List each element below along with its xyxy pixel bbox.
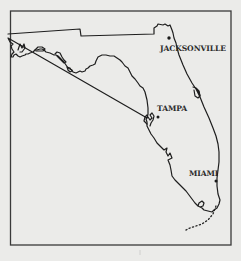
city-label-miami: MIAMI: [189, 169, 219, 178]
florida-map: JACKSONVILLE TAMPA MIAMI: [0, 0, 241, 261]
city-dot-icon: [167, 36, 170, 39]
city-dot-icon: [215, 180, 218, 183]
florida-keys: [184, 206, 216, 231]
city-miami: MIAMI: [189, 169, 219, 183]
city-label-tampa: TAMPA: [157, 104, 187, 113]
map-canvas: JACKSONVILLE TAMPA MIAMI: [0, 0, 241, 261]
city-jacksonville: JACKSONVILLE: [159, 36, 226, 53]
city-dot-icon: [157, 116, 160, 119]
city-tampa: TAMPA: [157, 104, 188, 119]
st-andrews-bay: [55, 52, 66, 63]
apalachicola-island: [67, 67, 72, 72]
city-label-jacksonville: JACKSONVILLE: [159, 44, 226, 53]
